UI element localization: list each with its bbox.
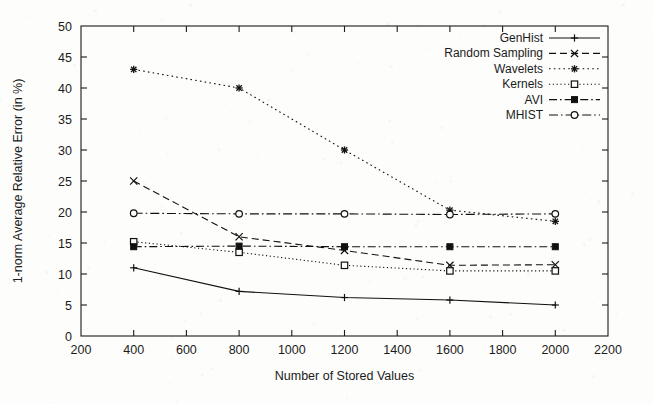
data-point-genhist-2000 — [552, 301, 559, 308]
x-tick-label: 1200 — [331, 343, 359, 357]
y-tick-label: 45 — [58, 51, 72, 65]
data-point-wavelets-400 — [130, 66, 137, 73]
line-chart: 2004006008001000120014001600180020002200… — [0, 0, 653, 404]
data-point-legend-0 — [571, 34, 578, 41]
y-tick-label: 30 — [58, 144, 72, 158]
chart-figure: 2004006008001000120014001600180020002200… — [0, 0, 653, 404]
data-point-avi-1200 — [342, 244, 348, 250]
data-point-kernels-1600 — [447, 268, 453, 274]
data-point-genhist-800 — [236, 288, 243, 295]
x-tick-label: 800 — [229, 343, 250, 357]
legend-label-genhist: GenHist — [500, 31, 544, 45]
data-point-kernels-800 — [236, 249, 242, 255]
x-tick-label: 1800 — [489, 343, 517, 357]
x-tick-label: 1000 — [278, 343, 306, 357]
data-point-avi-800 — [236, 243, 242, 249]
y-tick-label: 25 — [58, 175, 72, 189]
legend-label-wavelets: Wavelets — [494, 62, 543, 76]
x-tick-label: 1400 — [383, 343, 411, 357]
x-tick-label: 1600 — [436, 343, 464, 357]
y-tick-label: 10 — [58, 268, 72, 282]
y-tick-label: 15 — [58, 237, 72, 251]
legend-label-mhist: MHIST — [506, 108, 544, 122]
y-tick-label: 40 — [58, 82, 72, 96]
data-point-genhist-1200 — [341, 294, 348, 301]
x-axis-title: Number of Stored Values — [275, 369, 414, 383]
data-point-mhist-1600 — [447, 211, 454, 218]
legend-label-kernels: Kernels — [502, 77, 543, 91]
series-line-random-sampling — [134, 181, 556, 265]
x-tick-label: 200 — [71, 343, 92, 357]
data-point-random-sampling-400 — [130, 177, 137, 184]
x-tick-label: 600 — [176, 343, 197, 357]
legend-label-random-sampling: Random Sampling — [444, 46, 543, 60]
data-point-mhist-1200 — [341, 211, 348, 218]
data-point-wavelets-800 — [236, 84, 243, 91]
data-point-kernels-1200 — [341, 262, 347, 268]
y-tick-label: 5 — [65, 299, 72, 313]
data-point-kernels-2000 — [552, 268, 558, 274]
data-point-legend-4 — [572, 97, 578, 103]
legend-label-avi: AVI — [525, 93, 543, 107]
series-line-wavelets — [134, 69, 556, 221]
data-point-wavelets-1200 — [341, 146, 348, 153]
data-point-legend-2 — [571, 65, 578, 72]
data-point-wavelets-2000 — [552, 218, 559, 225]
y-axis-title: 1-norm Average Relative Error (in %) — [11, 79, 25, 284]
data-point-avi-2000 — [552, 244, 558, 250]
x-tick-label: 400 — [123, 343, 144, 357]
x-tick-label: 2200 — [594, 343, 622, 357]
data-point-avi-400 — [131, 244, 137, 250]
x-tick-label: 2000 — [541, 343, 569, 357]
data-point-avi-1600 — [447, 244, 453, 250]
y-tick-label: 0 — [65, 330, 72, 344]
data-point-legend-3 — [571, 81, 577, 87]
data-point-genhist-1600 — [446, 296, 453, 303]
y-tick-label: 50 — [58, 20, 72, 34]
y-tick-label: 20 — [58, 206, 72, 220]
data-point-mhist-2000 — [552, 211, 559, 218]
data-point-mhist-800 — [236, 211, 243, 218]
data-point-genhist-400 — [130, 264, 137, 271]
y-tick-label: 35 — [58, 113, 72, 127]
data-point-legend-5 — [571, 112, 578, 119]
data-point-mhist-400 — [130, 210, 137, 217]
